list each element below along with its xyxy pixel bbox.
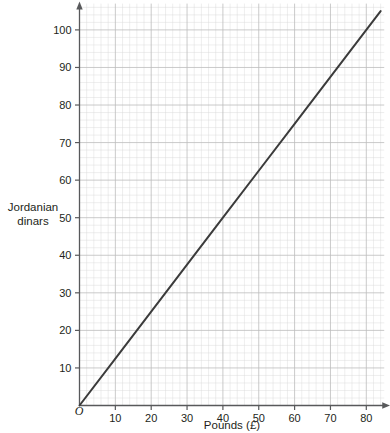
x-tick-label: 80 bbox=[360, 412, 372, 424]
x-tick-label: 10 bbox=[109, 412, 121, 424]
y-axis-title-line-2: dinars bbox=[17, 215, 49, 227]
x-axis-arrowhead bbox=[382, 402, 390, 408]
x-tick-label: 70 bbox=[324, 412, 336, 424]
chart-canvas: 102030405060708090100 1020304050607080 O… bbox=[0, 0, 390, 433]
conversion-graph: 102030405060708090100 1020304050607080 O… bbox=[0, 0, 390, 433]
x-tick-label: 20 bbox=[145, 412, 157, 424]
y-tick-label: 20 bbox=[59, 324, 71, 336]
y-axis-tick-labels: 102030405060708090100 bbox=[53, 24, 71, 374]
origin-label: O bbox=[75, 404, 84, 418]
y-tick-label: 70 bbox=[59, 137, 71, 149]
y-tick-label: 80 bbox=[59, 99, 71, 111]
x-tick-label: 60 bbox=[288, 412, 300, 424]
y-axis-arrowhead bbox=[76, 2, 82, 10]
y-tick-label: 40 bbox=[59, 249, 71, 261]
y-tick-label: 30 bbox=[59, 287, 71, 299]
y-tick-label: 10 bbox=[59, 362, 71, 374]
y-tick-label: 60 bbox=[59, 174, 71, 186]
x-tick-label: 30 bbox=[181, 412, 193, 424]
y-tick-label: 90 bbox=[59, 61, 71, 73]
y-axis-title-line-1: Jordanian bbox=[8, 201, 59, 213]
x-axis-title: Pounds (£) bbox=[204, 419, 260, 431]
y-tick-label: 50 bbox=[59, 212, 71, 224]
y-tick-label: 100 bbox=[53, 24, 71, 36]
